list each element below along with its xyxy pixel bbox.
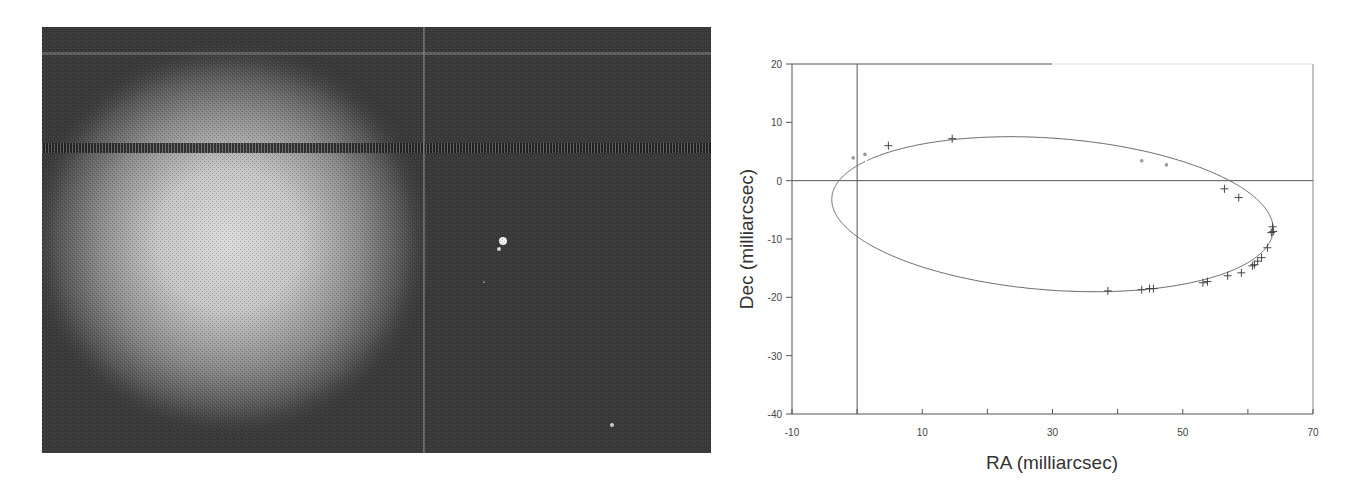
- segment-endpoint-marker: [863, 153, 867, 157]
- x-tick-label: 30: [1047, 427, 1059, 438]
- x-tick-label: -10: [785, 427, 800, 438]
- x-tick-label: 70: [1307, 427, 1319, 438]
- orbit-ellipse: [832, 137, 1273, 292]
- observation-points: [851, 135, 1277, 295]
- y-axis-title: Dec (milliarcsec): [736, 169, 757, 309]
- y-tick-label: -20: [768, 292, 783, 303]
- x-axis-title: RA (milliarcsec): [986, 452, 1118, 473]
- x-tick-label: 50: [1177, 427, 1189, 438]
- y-tick-label: 0: [776, 176, 782, 187]
- segment-endpoint-marker: [1140, 159, 1144, 163]
- segment-endpoint-marker: [1165, 163, 1169, 167]
- y-tick-label: -30: [768, 351, 783, 362]
- segment-endpoint-marker: [851, 156, 855, 160]
- y-tick-label: 10: [771, 117, 783, 128]
- orbit-chart: -101030507020100-10-20-30-40 RA (milliar…: [0, 0, 1363, 500]
- chart-axes: -101030507020100-10-20-30-40: [768, 59, 1319, 438]
- x-tick-label: 10: [917, 427, 929, 438]
- y-tick-label: -10: [768, 234, 783, 245]
- y-tick-label: 20: [771, 59, 783, 70]
- y-tick-label: -40: [768, 409, 783, 420]
